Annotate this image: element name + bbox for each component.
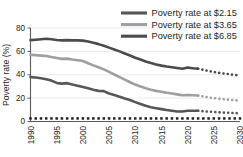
x-axis-tick-dot [181,117,184,120]
x-axis-tick-dot [171,117,174,120]
x-tick-label: 1990 [27,126,36,145]
y-axis-title: Poverty rate (%) [1,44,11,106]
x-axis-tick-dot [207,117,210,120]
x-tick-label: 1995 [53,126,62,145]
x-axis-tick-dot [87,117,90,120]
x-axis-tick-dot [50,117,53,120]
x-tick-label: 2000 [79,126,88,145]
x-axis-tick-dot [228,117,231,120]
x-axis-tick-dot [34,117,37,120]
x-tick-label: 2005 [105,126,114,145]
x-axis-tick-dot [61,117,64,120]
poverty-rate-chart: 020406080 199019952000200520102015202020… [0,0,243,157]
x-axis-tick-dot [144,117,147,120]
x-axis-tick-dot [223,117,226,120]
x-axis-tick-dot [66,117,69,120]
x-axis-tick-dots [29,117,241,120]
x-axis-tick-dot [45,117,48,120]
x-tick-label: 2020 [184,126,193,145]
x-axis-tick-dot [108,117,111,120]
x-axis-tick-dot [40,117,43,120]
y-tick-label: 80 [16,24,26,33]
series-line [31,55,199,96]
legend-item-label: Poverty rate at $3.65 [152,20,237,30]
legend-item[interactable]: Poverty rate at $2.15 [121,8,237,18]
x-axis-tick-dot [160,117,163,120]
data-series-group [31,39,241,114]
x-axis-tick-dot [29,117,32,120]
x-axis-tick-dot [150,117,153,120]
x-axis-tick-dot [239,117,242,120]
x-axis-tick-dot [118,117,121,120]
x-axis-tick-dot [192,117,195,120]
series-1 [31,77,241,113]
y-axis-ticks: 020406080 [16,24,31,127]
x-axis-tick-dot [103,117,106,120]
x-axis-tick-dot [55,117,58,120]
x-axis-tick-dot [213,117,216,120]
x-tick-label: 2010 [131,126,140,145]
x-axis-tick-dot [218,117,221,120]
x-axis-tick-dot [82,117,85,120]
x-tick-label: 2015 [158,126,167,145]
x-axis-tick-dot [176,117,179,120]
legend-item[interactable]: Poverty rate at $6.85 [121,31,237,41]
x-axis-tick-dot [92,117,95,120]
chart-legend: Poverty rate at $2.15Poverty rate at $3.… [121,8,237,41]
chart-canvas: 020406080 199019952000200520102015202020… [0,0,243,157]
x-axis-tick-dot [155,117,158,120]
series-2 [31,55,241,101]
x-tick-label: 2030 [236,126,243,145]
x-axis-tick-dot [165,117,168,120]
y-tick-label: 0 [20,117,25,126]
x-axis-tick-dot [113,117,116,120]
x-axis-tick-dot [202,117,205,120]
x-axis-tick-dot [197,117,200,120]
y-tick-label: 60 [16,47,26,56]
y-tick-label: 20 [16,94,26,103]
series-projection-line [198,111,240,114]
series-line [31,39,199,69]
x-axis-tick-dot [76,117,79,120]
x-axis-tick-dot [71,117,74,120]
y-tick-label: 40 [16,70,26,79]
x-tick-label: 2025 [210,126,219,145]
series-3 [31,39,241,76]
x-axis-tick-dot [97,117,100,120]
legend-item-label: Poverty rate at $6.85 [152,31,237,41]
x-axis-tick-dot [129,117,132,120]
legend-item-label: Poverty rate at $2.15 [152,8,237,18]
x-axis-tick-dot [234,117,237,120]
x-axis-ticks: 199019952000200520102015202020252030 [27,126,243,145]
x-axis: 199019952000200520102015202020252030 [27,117,243,144]
x-axis-tick-dot [134,117,137,120]
y-axis: 020406080 [16,24,31,127]
x-axis-tick-dot [124,117,127,120]
x-axis-tick-dot [186,117,189,120]
x-axis-tick-dot [139,117,142,120]
